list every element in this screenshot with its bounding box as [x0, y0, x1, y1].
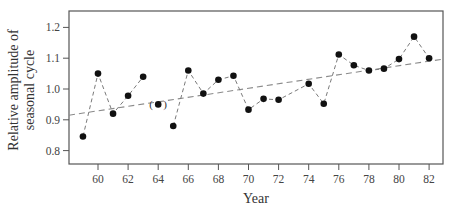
x-tick-label: 78 — [363, 173, 375, 185]
data-point — [336, 51, 343, 58]
y-tick-label: 1.1 — [46, 52, 61, 64]
y-tick-label: 1.2 — [46, 21, 61, 33]
x-tick-label: 82 — [423, 173, 435, 185]
y-axis-title-line1: Relative amplitude of — [6, 29, 21, 151]
data-series-line — [83, 37, 429, 137]
data-point — [411, 33, 418, 40]
x-tick-label: 80 — [393, 173, 405, 185]
paren-close: ) — [163, 98, 167, 111]
data-point — [366, 67, 373, 74]
data-point — [320, 100, 327, 107]
x-tick-label: 70 — [243, 173, 255, 185]
x-tick-label: 76 — [333, 173, 345, 185]
x-tick-label: 74 — [303, 173, 315, 185]
data-point — [215, 76, 222, 83]
data-point — [110, 110, 117, 117]
data-point — [125, 92, 132, 99]
data-point — [351, 62, 358, 69]
data-point — [140, 73, 147, 80]
data-points: () — [80, 33, 433, 139]
data-point — [260, 96, 267, 103]
data-point — [170, 123, 177, 130]
paren-open: ( — [149, 98, 153, 111]
data-point — [396, 56, 403, 63]
y-tick-label: 0.9 — [46, 114, 61, 126]
x-tick-label: 64 — [152, 173, 164, 185]
x-tick-label: 68 — [213, 173, 225, 185]
y-tick-label: 1.0 — [46, 83, 61, 95]
data-point — [95, 70, 102, 77]
x-tick-label: 62 — [122, 173, 134, 185]
plot-frame — [69, 11, 443, 164]
data-point — [185, 67, 192, 74]
data-point — [426, 55, 433, 62]
amplitude-chart: Relative amplitude of seasonal cycle Yea… — [0, 0, 451, 211]
y-axis-title-line2: seasonal cycle — [22, 50, 37, 130]
x-tick-label: 72 — [273, 173, 285, 185]
y-axis-ticks: 0.80.91.01.11.2 — [46, 21, 69, 156]
x-tick-label: 60 — [92, 173, 104, 185]
y-tick-label: 0.8 — [46, 145, 61, 157]
data-point — [245, 106, 252, 113]
y-axis-title: Relative amplitude of seasonal cycle — [6, 29, 37, 151]
data-point — [200, 90, 207, 97]
data-point — [80, 133, 87, 140]
data-point — [230, 72, 237, 79]
x-axis-title: Year — [243, 191, 269, 206]
data-point — [381, 65, 388, 72]
series-segment — [173, 37, 429, 126]
data-point — [155, 101, 162, 108]
data-point — [305, 80, 312, 87]
data-point — [275, 96, 282, 103]
x-axis-ticks: 606264666870727476788082 — [92, 164, 435, 185]
x-tick-label: 66 — [183, 173, 195, 185]
